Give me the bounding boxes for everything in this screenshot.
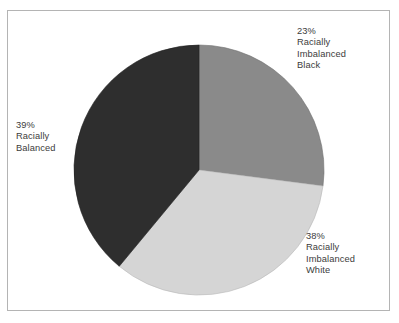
pie-label-line-3: Black — [297, 60, 346, 71]
pie-label-racially-imbalanced-black: 23% Racially Imbalanced Black — [297, 26, 346, 72]
pie-label-line-2: Imbalanced — [297, 49, 346, 60]
pie-label-line-1: Racially — [297, 37, 346, 48]
pie-label-percent: 23% — [297, 26, 346, 37]
pie-label-racially-balanced: 39% Racially Balanced — [16, 120, 56, 154]
pie-label-line-2: Imbalanced — [306, 254, 355, 265]
pie-label-line-3: White — [306, 265, 355, 276]
pie-label-percent: 39% — [16, 120, 56, 131]
pie-label-line-1: Racially — [16, 131, 56, 142]
pie-chart-figure: 23% Racially Imbalanced Black 38% Racial… — [0, 0, 399, 323]
pie-label-line-2: Balanced — [16, 143, 56, 154]
pie-label-percent: 38% — [306, 231, 355, 242]
pie-label-racially-imbalanced-white: 38% Racially Imbalanced White — [306, 231, 355, 277]
pie-label-line-1: Racially — [306, 242, 355, 253]
